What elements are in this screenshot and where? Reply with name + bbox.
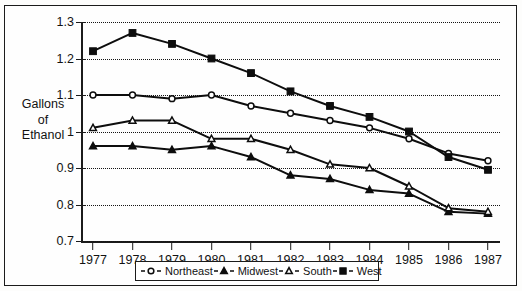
series-south: [90, 117, 492, 214]
x-tick-mark: [250, 241, 251, 250]
data-point: [129, 143, 136, 149]
data-point: [209, 92, 215, 98]
data-point: [445, 154, 452, 161]
legend-item-northeast[interactable]: Northeast: [140, 265, 213, 277]
x-tick-mark: [171, 241, 172, 250]
x-tick-mark: [132, 241, 133, 250]
data-point: [406, 128, 413, 135]
series-group: [81, 22, 500, 241]
data-point: [169, 41, 176, 48]
legend-item-midwest[interactable]: Midwest: [213, 265, 278, 277]
legend-marker-open-circle: [140, 265, 162, 277]
data-point: [406, 183, 413, 189]
y-tick-mark: [76, 241, 86, 242]
data-point: [208, 143, 215, 149]
data-point: [406, 190, 413, 196]
series-line: [93, 146, 488, 214]
data-point: [445, 205, 452, 211]
x-tick-mark: [448, 241, 449, 250]
series-midwest: [90, 143, 492, 217]
data-point: [485, 166, 492, 173]
data-point: [169, 117, 176, 123]
data-point: [90, 92, 96, 98]
data-point: [287, 88, 294, 95]
chart-legend: NortheastMidwestSouthWest: [135, 261, 379, 281]
data-point: [327, 175, 334, 181]
legend-label: Northeast: [165, 265, 213, 277]
plot-area: 0.70.80.911.11.21.3: [81, 22, 500, 241]
data-point: [90, 48, 97, 55]
data-point: [366, 186, 373, 192]
legend-label: South: [303, 265, 332, 277]
x-tick-label: 1987: [474, 253, 502, 267]
data-point: [367, 125, 373, 131]
x-tick-mark: [92, 241, 93, 250]
data-point: [208, 55, 215, 62]
x-tick-mark: [408, 241, 409, 250]
legend-marker-open-triangle: [278, 265, 300, 277]
data-point: [130, 92, 136, 98]
x-tick-mark: [211, 241, 212, 250]
y-tick-label: 1.3: [57, 15, 74, 29]
legend-marker-filled-square: [332, 265, 354, 277]
data-point: [248, 103, 254, 109]
legend-item-south[interactable]: South: [278, 265, 332, 277]
x-tick-mark: [290, 241, 291, 250]
data-point: [169, 146, 176, 152]
data-point: [366, 164, 373, 170]
x-tick-label: 1985: [395, 253, 423, 267]
data-point: [485, 208, 492, 214]
x-tick-mark: [369, 241, 370, 250]
y-tick-label: 0.7: [57, 234, 74, 248]
data-point: [327, 118, 333, 124]
data-point: [90, 124, 97, 130]
data-point: [129, 117, 136, 123]
data-point: [90, 143, 97, 149]
y-tick-label: 1.1: [57, 88, 74, 102]
x-tick-label: 1977: [79, 253, 107, 267]
data-point: [287, 172, 294, 178]
y-tick-label: 1: [67, 125, 74, 139]
data-point: [169, 96, 175, 102]
data-point: [287, 146, 294, 152]
data-point: [248, 153, 255, 159]
data-point: [327, 161, 334, 167]
data-point: [288, 110, 294, 116]
y-tick-label: 0.8: [57, 198, 74, 212]
x-tick-mark: [329, 241, 330, 250]
data-point: [366, 114, 373, 121]
data-point: [248, 135, 255, 141]
legend-marker-filled-triangle: [213, 265, 235, 277]
legend-label: West: [357, 265, 382, 277]
x-tick-mark: [487, 241, 488, 250]
legend-item-west[interactable]: West: [332, 265, 382, 277]
data-point: [248, 70, 255, 77]
data-point: [485, 158, 491, 164]
legend-label: Midwest: [238, 265, 278, 277]
data-point: [208, 135, 215, 141]
y-tick-label: 0.9: [57, 161, 74, 175]
y-tick-label: 1.2: [57, 52, 74, 66]
data-point: [406, 136, 412, 142]
data-point: [327, 103, 334, 110]
x-tick-label: 1986: [435, 253, 463, 267]
series-line: [93, 121, 488, 212]
chart-screenshot: Gallons of Ethanol 0.70.80.911.11.21.3 1…: [0, 0, 522, 291]
data-point: [129, 30, 136, 37]
